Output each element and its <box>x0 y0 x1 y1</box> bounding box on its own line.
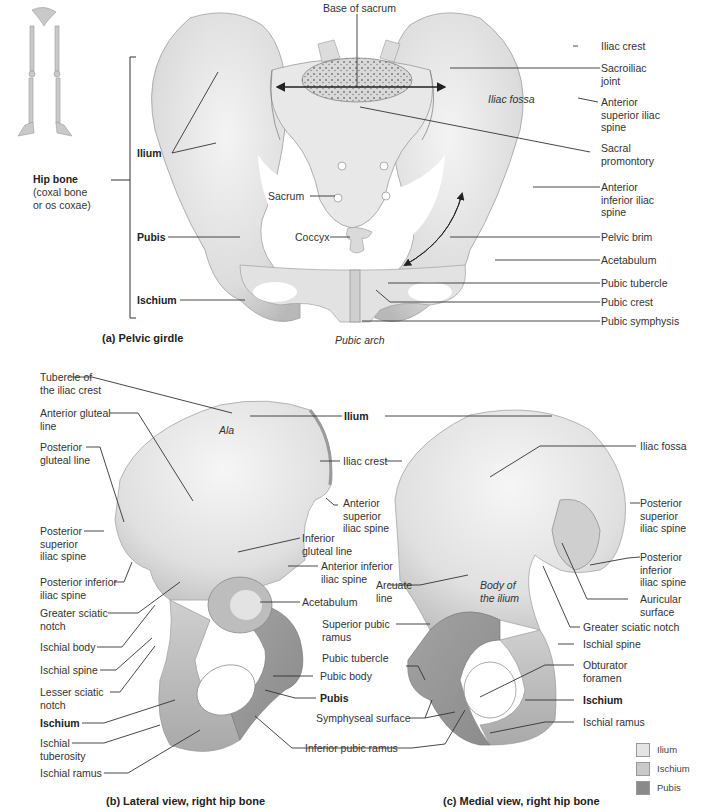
anatomy-artwork <box>0 0 703 812</box>
caption-a: (a) Pelvic girdle <box>102 332 183 344</box>
label-pubis-b: Pubis <box>320 692 349 705</box>
label-iliac-fossa-a: Iliac fossa <box>488 93 535 106</box>
label-iliac-crest-a: Iliac crest <box>601 40 645 53</box>
label-aiis-a: Anterior inferior iliac spine <box>601 181 654 219</box>
label-pubic-body: Pubic body <box>320 670 372 683</box>
label-piis-c: Posterior inferior iliac spine <box>640 551 686 589</box>
label-greater-sciatic-notch-b: Greater sciatic notch <box>40 607 108 632</box>
label-ala: Ala <box>219 424 234 437</box>
legend-swatch-ischium <box>636 762 650 776</box>
label-obturator-foramen: Obturator foramen <box>583 659 627 684</box>
legend-item-pubis: Pubis <box>636 778 690 797</box>
skeleton-thumbnail-icon <box>18 7 72 136</box>
label-ischium-c: Ischium <box>583 694 623 707</box>
lateral-view-illustration <box>115 401 332 751</box>
label-piis-b: Posterior inferior iliac spine <box>40 576 117 601</box>
label-anterior-gluteal-line: Anterior gluteal line <box>40 407 111 432</box>
label-posterior-gluteal-line: Posterior gluteal line <box>40 441 90 466</box>
label-ischium-b: Ischium <box>40 717 80 730</box>
caption-b: (b) Lateral view, right hip bone <box>106 795 265 807</box>
label-tubercle-iliac-crest: Tubercle of the iliac crest <box>40 371 101 396</box>
label-acetabulum-a: Acetabulum <box>601 254 656 267</box>
legend-item-ilium: Ilium <box>636 740 690 759</box>
label-auricular-surface: Auricular surface <box>640 593 681 618</box>
legend-swatch-ilium <box>636 743 650 757</box>
label-psis-c: Posterior superior iliac spine <box>640 497 686 535</box>
label-ischial-ramus-c: Ischial ramus <box>583 716 645 729</box>
label-base-of-sacrum: Base of sacrum <box>323 2 396 15</box>
legend-label: Pubis <box>657 782 681 793</box>
label-greater-sciatic-notch-c: Greater sciatic notch <box>583 621 679 634</box>
label-inferior-gluteal-line: Inferior gluteal line <box>302 532 352 557</box>
hip-bone-bracket <box>130 57 136 318</box>
label-sacral-promontory: Sacral promontory <box>601 142 654 167</box>
label-arcuate-line: Arcuate line <box>376 579 412 604</box>
hip-bone-sublabel: (coxal bone or os coxae) <box>33 186 91 211</box>
label-asis-a: Anterior superior iliac spine <box>601 96 660 134</box>
label-ilium-a: Ilium <box>137 147 162 160</box>
label-ischial-tuberosity: Ischial tuberosity <box>40 737 86 762</box>
label-ischial-body: Ischial body <box>40 641 95 654</box>
label-iliac-fossa-c: Iliac fossa <box>640 440 687 453</box>
label-pubis-a: Pubis <box>137 231 166 244</box>
legend-swatch-pubis <box>636 781 650 795</box>
legend-label: Ilium <box>657 744 677 755</box>
label-body-of-ilium: Body of the ilium <box>480 579 519 604</box>
legend-item-ischium: Ischium <box>636 759 690 778</box>
pelvic-girdle-illustration <box>152 13 524 322</box>
label-pubic-crest: Pubic crest <box>601 296 653 309</box>
label-ischial-spine-b: Ischial spine <box>40 664 98 677</box>
label-pubic-arch: Pubic arch <box>335 334 385 347</box>
label-ilium-b: Ilium <box>344 410 369 423</box>
legend: Ilium Ischium Pubis <box>636 740 690 797</box>
label-coccyx: Coccyx <box>295 231 329 244</box>
legend-label: Ischium <box>657 763 690 774</box>
hip-bone-label: Hip bone <box>33 173 78 186</box>
label-asis-b: Anterior superior iliac spine <box>343 497 389 535</box>
label-pubic-tubercle-a: Pubic tubercle <box>601 277 668 290</box>
label-pubic-symphysis: Pubic symphysis <box>601 315 679 328</box>
label-sacroiliac-joint: Sacroiliac joint <box>601 62 647 87</box>
label-pubic-tubercle-b: Pubic tubercle <box>322 652 389 665</box>
label-superior-pubic-ramus: Superior pubic ramus <box>322 618 390 643</box>
label-iliac-crest-b: Iliac crest <box>343 455 387 468</box>
label-symphyseal-surface: Symphyseal surface <box>316 712 411 725</box>
label-ischial-spine-c: Ischial spine <box>583 638 641 651</box>
caption-c: (c) Medial view, right hip bone <box>443 795 600 807</box>
label-ischium-a: Ischium <box>137 294 177 307</box>
label-ischial-ramus-b: Ischial ramus <box>40 767 102 780</box>
label-acetabulum-b: Acetabulum <box>302 596 357 609</box>
label-inferior-pubic-ramus: Inferior pubic ramus <box>305 742 398 755</box>
label-sacrum: Sacrum <box>268 190 304 203</box>
label-lesser-sciatic-notch: Lesser sciatic notch <box>40 686 104 711</box>
label-pelvic-brim: Pelvic brim <box>601 231 652 244</box>
label-psis-b: Posterior superior iliac spine <box>40 525 86 563</box>
